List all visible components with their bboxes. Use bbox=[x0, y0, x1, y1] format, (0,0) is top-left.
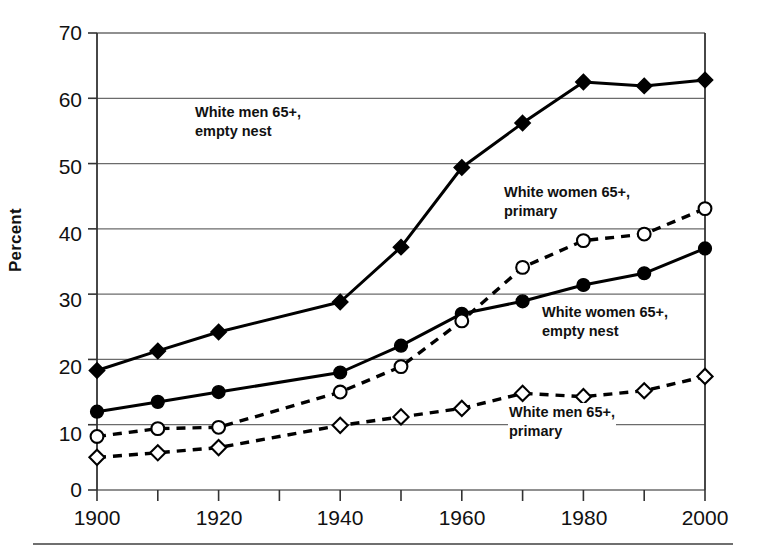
data-point-s3-1960 bbox=[454, 401, 469, 416]
data-point-s3-1940 bbox=[333, 418, 348, 433]
data-point-s1-2000 bbox=[699, 242, 712, 255]
x-tick-1960: 1960 bbox=[422, 506, 502, 530]
y-tick-20: 20 bbox=[38, 355, 82, 379]
data-point-s2-1970 bbox=[516, 261, 529, 274]
data-point-s2-1920 bbox=[212, 421, 225, 434]
y-tick-50: 50 bbox=[38, 155, 82, 179]
data-point-s3-1950 bbox=[393, 409, 408, 424]
annotation-men-empty-nest: White men 65+, empty nest bbox=[194, 103, 302, 141]
y-tick-60: 60 bbox=[38, 88, 82, 112]
annotation-women-empty-nest-line1: White women 65+, bbox=[542, 303, 668, 322]
x-tick-1980: 1980 bbox=[544, 506, 624, 530]
y-axis-title: Percent bbox=[6, 152, 26, 272]
data-point-s1-1980 bbox=[577, 279, 590, 292]
annotation-women-primary: White women 65+, primary bbox=[503, 183, 631, 221]
data-point-s3-1990 bbox=[637, 383, 652, 398]
data-point-s0-1920 bbox=[211, 324, 226, 339]
y-tick-10: 10 bbox=[38, 422, 82, 446]
chart-figure: Percent 70 60 50 40 30 20 10 0 1900 1920… bbox=[0, 0, 762, 555]
data-point-s0-1990 bbox=[637, 78, 652, 93]
data-point-s2-1940 bbox=[334, 386, 347, 399]
data-point-s1-1900 bbox=[91, 405, 104, 418]
y-tick-40: 40 bbox=[38, 222, 82, 246]
annotation-men-empty-nest-line2: empty nest bbox=[195, 122, 301, 141]
x-tick-1900: 1900 bbox=[57, 506, 137, 530]
data-point-s1-1950 bbox=[395, 339, 408, 352]
data-point-s2-2000 bbox=[699, 202, 712, 215]
annotation-men-primary: White men 65+, primary bbox=[508, 403, 616, 441]
data-point-s3-1970 bbox=[515, 386, 530, 401]
data-point-s3-1980 bbox=[576, 389, 591, 404]
x-tick-2000: 2000 bbox=[665, 506, 745, 530]
data-point-s2-1960 bbox=[455, 315, 468, 328]
line-chart-canvas bbox=[0, 0, 762, 555]
data-point-s2-1910 bbox=[151, 422, 164, 435]
annotation-men-primary-line1: White men 65+, bbox=[509, 403, 615, 422]
data-point-s1-1910 bbox=[151, 395, 164, 408]
annotation-men-empty-nest-line1: White men 65+, bbox=[195, 103, 301, 122]
annotation-men-primary-line2: primary bbox=[509, 422, 615, 441]
data-point-s3-1920 bbox=[211, 440, 226, 455]
annotation-women-primary-line1: White women 65+, bbox=[504, 183, 630, 202]
x-tick-1940: 1940 bbox=[300, 506, 380, 530]
footer-divider-rule bbox=[33, 543, 733, 545]
y-tick-0: 0 bbox=[38, 478, 82, 502]
data-point-s1-1940 bbox=[334, 366, 347, 379]
data-point-s3-2000 bbox=[697, 369, 712, 384]
data-point-s1-1970 bbox=[516, 295, 529, 308]
annotation-women-empty-nest: White women 65+, empty nest bbox=[541, 303, 669, 341]
data-point-s2-1900 bbox=[91, 430, 104, 443]
data-point-s0-1910 bbox=[150, 343, 165, 358]
y-tick-70: 70 bbox=[38, 21, 82, 45]
annotation-women-primary-line2: primary bbox=[504, 202, 630, 221]
annotation-women-empty-nest-line2: empty nest bbox=[542, 322, 668, 341]
data-point-s2-1950 bbox=[395, 360, 408, 373]
x-tick-1920: 1920 bbox=[179, 506, 259, 530]
data-point-s1-1920 bbox=[212, 386, 225, 399]
data-point-s3-1900 bbox=[89, 450, 104, 465]
data-point-s1-1990 bbox=[638, 267, 651, 280]
data-point-s2-1990 bbox=[638, 228, 651, 241]
data-point-s2-1980 bbox=[577, 234, 590, 247]
y-tick-30: 30 bbox=[38, 288, 82, 312]
data-point-s0-2000 bbox=[697, 72, 712, 87]
data-point-s3-1910 bbox=[150, 445, 165, 460]
data-point-s0-1900 bbox=[89, 363, 104, 378]
